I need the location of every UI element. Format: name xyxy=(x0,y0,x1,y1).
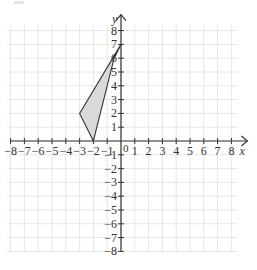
x-tick-label: −3 xyxy=(73,144,86,158)
x-tick-label: 2 xyxy=(146,144,152,158)
y-tick-label: −3 xyxy=(104,175,117,189)
y-tick-label: 1 xyxy=(111,120,117,134)
y-tick-label: 5 xyxy=(111,65,117,79)
y-tick-label: −6 xyxy=(104,217,117,231)
y-tick-label: 7 xyxy=(111,37,117,51)
x-tick-label: 5 xyxy=(187,144,193,158)
y-tick-label: −2 xyxy=(104,162,117,176)
y-tick-label: 4 xyxy=(111,79,117,93)
y-tick-label: −8 xyxy=(104,244,117,258)
x-tick-label: −7 xyxy=(18,144,31,158)
origin-label: 0 xyxy=(123,142,129,154)
x-tick-label: 1 xyxy=(132,144,138,158)
x-tick-label: −5 xyxy=(46,144,59,158)
x-tick-label: 8 xyxy=(228,144,234,158)
x-tick-label: −8 xyxy=(4,144,17,158)
y-tick-label: 6 xyxy=(111,51,117,65)
coordinate-plane: −8−7−6−5−4−3−2−112345678−8−7−6−5−4−3−2−1… xyxy=(0,0,257,270)
x-tick-label: −4 xyxy=(59,144,72,158)
y-axis-label: y xyxy=(111,12,118,26)
y-tick-label: −1 xyxy=(104,148,117,162)
x-tick-label: 4 xyxy=(173,144,179,158)
x-tick-label: 7 xyxy=(215,144,221,158)
x-tick-label: 3 xyxy=(159,144,165,158)
x-tick-label: 6 xyxy=(201,144,207,158)
x-tick-label: −6 xyxy=(32,144,45,158)
x-axis-label: x xyxy=(238,144,245,158)
y-tick-label: 2 xyxy=(111,106,117,120)
y-tick-label: −7 xyxy=(104,231,117,245)
y-tick-label: −4 xyxy=(104,189,117,203)
x-tick-label: −2 xyxy=(87,144,100,158)
y-tick-label: 3 xyxy=(111,93,117,107)
y-tick-label: 8 xyxy=(111,24,117,38)
y-tick-label: −5 xyxy=(104,203,117,217)
